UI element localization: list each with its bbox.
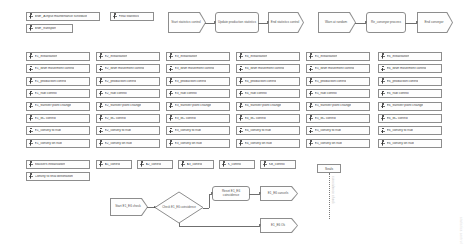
equipment-node-e1-3[interactable]: E1_hub control [26,89,90,98]
stacker-node-3[interactable]: A3_control [178,160,214,169]
top_flow_left-update[interactable]: Update production statistics [215,12,259,33]
equipment-node-e5-3[interactable]: E5_hub control [306,89,370,98]
connector-arrow [365,21,367,23]
stacker-node-2[interactable]: A2_control [137,160,173,169]
equipment-node-e4-4[interactable]: E4_transfer point change [236,102,300,111]
equipment-node-e6-3[interactable]: E6_hub control [378,89,442,98]
equipment-node-e1-1[interactable]: E1_BNE movement control [26,64,90,73]
equipment-node-e4-2[interactable]: E4_production control [236,77,300,86]
equipment-node-e5-5[interactable]: E5_BC control [306,114,370,123]
actor-icon [169,78,174,85]
node-label: E1_E6 cancels [261,187,297,200]
equipment-node-e4-7[interactable]: E4_convey on hub [236,139,300,148]
node-label: K_control [228,163,242,166]
node-label: A3_control [187,163,203,166]
equipment-node-e2-4[interactable]: E2_transfer point change [96,102,160,111]
actor-icon [29,127,34,134]
equipment-node-e5-4[interactable]: E5_transfer point change [306,102,370,111]
equipment-node-e2-6[interactable]: E2_convey to hub [96,126,160,135]
connector-arrow [259,224,261,226]
equipment-node-e3-4[interactable]: E3_transfer point change [166,102,230,111]
equipment-node-e2-5[interactable]: E2_BC control [96,114,160,123]
actor-icon [99,140,104,147]
equipment-node-e4-3[interactable]: E4_hub control [236,89,300,98]
equipment-node-e5-7[interactable]: E5_convey on hub [306,139,370,148]
actor-icon [263,161,268,168]
node-label: E5_convey to hub [315,129,341,132]
bottom-flow-ok[interactable]: E1_E6 Ok [260,218,298,233]
equipment-node-e2-2[interactable]: E2_production control [96,77,160,86]
equipment-node-e5-6[interactable]: E5_convey to hub [306,126,370,135]
stacker-node2-0[interactable]: Convey to final destination [26,172,90,181]
equipment-node-e6-1[interactable]: E6_BNE movement control [378,64,442,73]
top-node-1[interactable]: Final statistics [110,12,154,21]
equipment-node-e4-5[interactable]: E4_BC control [236,114,300,123]
node-label: Start statistics control [169,13,205,32]
top_flow_left-end[interactable]: End statistics control [268,12,304,33]
equipment-node-e6-5[interactable]: E6_BC control [378,114,442,123]
equipment-node-e2-0[interactable]: E2_initialisation [96,52,160,61]
equipment-node-e3-3[interactable]: E3_hub control [166,89,230,98]
stacker-node-5[interactable]: KB_control [260,160,296,169]
equipment-node-e2-3[interactable]: E2_hub control [96,89,160,98]
equipment-node-e6-6[interactable]: E6_convey to hub [378,126,442,135]
node-label: End statistics control [269,13,303,32]
equipment-node-e1-4[interactable]: E1_transfer point change [26,102,90,111]
equipment-node-e1-5[interactable]: E1_BC control [26,114,90,123]
stacker-node-1[interactable]: A1_control [96,160,132,169]
equipment-node-e3-7[interactable]: E3_convey on hub [166,139,230,148]
equipment-node-e4-0[interactable]: E4_initialisation [236,52,300,61]
bottom-flow-start[interactable]: Start E1_E6 check [110,198,148,216]
equipment-node-e1-2[interactable]: E1_production control [26,77,90,86]
actor-icon [381,53,386,60]
actor-icon [239,78,244,85]
equipment-node-e4-1[interactable]: E4_BNE movement control [236,64,300,73]
equipment-node-e1-6[interactable]: E1_convey to hub [26,126,90,135]
bottom-flow-check[interactable]: Check E1_E6 coincidence [155,192,203,223]
equipment-node-e5-0[interactable]: E5_initialisation [306,52,370,61]
equipment-node-e6-4[interactable]: E6_transfer point change [378,102,442,111]
node-label: Convey to final destination [35,175,73,178]
actor-icon [140,161,145,168]
equipment-node-e3-2[interactable]: E3_production control [166,77,230,86]
bottom-flow-reset[interactable]: Reset E1_E6 coincidence [212,186,250,201]
actor-icon [29,13,34,20]
stacker-node-0[interactable]: Stackers initialisation [26,160,90,169]
equipment-node-e1-7[interactable]: E1_convey on hub [26,139,90,148]
equipment-node-e3-1[interactable]: E3_BNE movement control [166,64,230,73]
top_flow_left-start[interactable]: Start statistics control [168,12,206,33]
actor-icon [309,65,314,72]
bottom-flow-cancels[interactable]: E1_E6 cancels [260,186,298,201]
equipment-node-e2-7[interactable]: E2_convey on hub [96,139,160,148]
equipment-node-e1-0[interactable]: E1_initialisation [26,52,90,61]
equipment-node-e6-7[interactable]: E6_convey on hub [378,139,442,148]
actor-icon [99,127,104,134]
equipment-node-e3-6[interactable]: E3_convey to hub [166,126,230,135]
node-label: A1_control [105,163,121,166]
node-label: E4_convey to hub [245,129,271,132]
equipment-node-e4-6[interactable]: E4_convey to hub [236,126,300,135]
actor-icon [309,78,314,85]
node-label: E6_convey to hub [387,129,413,132]
equipment-node-e3-0[interactable]: E3_initialisation [166,52,230,61]
seals-note[interactable]: Seals [317,164,341,173]
top-node-0[interactable]: BNE_A input maintenance schedule [26,12,100,21]
top-node-2[interactable]: BNE_transport [26,24,73,33]
node-label: E3_production control [175,80,207,83]
node-label: E2_BNE movement control [105,67,145,70]
equipment-node-e2-1[interactable]: E2_BNE movement control [96,64,160,73]
top_flow_right-endconv[interactable]: End conveyor [417,12,453,33]
actor-icon [309,127,314,134]
actor-icon [381,65,386,72]
top_flow_right-warn[interactable]: Warn at random [318,12,356,33]
actor-icon [29,25,34,32]
equipment-node-e5-1[interactable]: E5_BNE movement control [306,64,370,73]
equipment-node-e6-0[interactable]: E6_initialisation [378,52,442,61]
actor-icon [222,161,227,168]
equipment-node-e3-5[interactable]: E3_BC control [166,114,230,123]
actor-icon [99,90,104,97]
top_flow_right-reopen[interactable]: Re_conveyor process [366,12,406,33]
equipment-node-e5-2[interactable]: E5_production control [306,77,370,86]
stacker-node-4[interactable]: K_control [219,160,255,169]
equipment-node-e6-2[interactable]: E6_production control [378,77,442,86]
